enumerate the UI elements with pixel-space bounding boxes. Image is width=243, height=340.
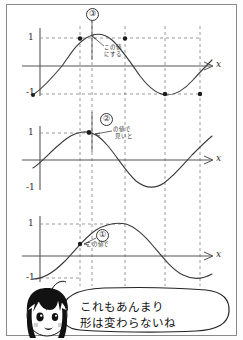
speech-bubble-line2: 形は変わらないね: [80, 315, 176, 331]
graph-middle: [22, 112, 213, 190]
y-tick-positive-top: 1: [28, 32, 34, 42]
note-middle-line1: の値で: [113, 126, 130, 133]
chibi-character: [27, 281, 68, 338]
marker-circled-3: ③: [86, 8, 99, 21]
note-bottom-line1: この値で: [86, 241, 109, 248]
speech-bubble-line1: これもあんまり: [80, 299, 164, 315]
x-axis-label-middle: x: [216, 153, 221, 163]
y-tick-positive-middle: 1: [28, 127, 34, 137]
y-tick-negative-bottom: -1: [26, 272, 35, 282]
note-top-line2: にする: [104, 51, 121, 58]
y-tick-negative-middle: -1: [26, 182, 35, 192]
marker-circled-2: ②: [100, 113, 113, 126]
graph-bottom: [22, 216, 213, 282]
note-top-line1: この値: [104, 44, 121, 51]
y-tick-positive-bottom: 1: [28, 218, 34, 228]
note-middle-line2: 見いと: [115, 133, 132, 140]
x-axis-label-top: x: [216, 59, 221, 69]
graph-artwork: .curve{fill:none;stroke:#3a3a3a;stroke-w…: [0, 0, 243, 340]
x-axis-label-bottom: x: [216, 249, 221, 259]
notebook-page: .curve{fill:none;stroke:#3a3a3a;stroke-w…: [0, 0, 243, 340]
y-tick-negative-top: -1: [26, 87, 35, 97]
